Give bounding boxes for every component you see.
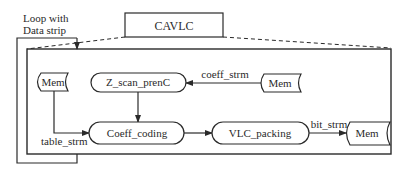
z-scan-prenc-label: Z_scan_prenC	[106, 76, 170, 88]
mem-left-node: Mem	[38, 73, 69, 91]
vlc-packing-node: VLC_packing	[212, 122, 309, 144]
expansion-line-left	[27, 37, 125, 49]
vlc-packing-label: VLC_packing	[229, 127, 292, 139]
mem-right-bottom-node: Mem	[347, 122, 391, 145]
coeff-coding-node: Coeff_coding	[89, 122, 184, 144]
cavlc-title: CAVLC	[154, 19, 193, 33]
mem-right-top-label: Mem	[268, 77, 292, 89]
bit-strm-label: bit_strm	[311, 118, 348, 130]
cavlc-title-box: CAVLC	[125, 13, 223, 37]
cavlc-diagram: Loop with Data strip CAVLC Mem Z_scan_pr…	[0, 0, 409, 181]
mem-right-top-node: Mem	[261, 74, 301, 92]
table-strm-label: table_strm	[41, 135, 88, 147]
expansion-line-right	[223, 37, 391, 48]
z-scan-prenc-node: Z_scan_prenC	[91, 73, 186, 92]
coeff-coding-label: Coeff_coding	[107, 127, 168, 139]
coeff-strm-label: coeff_strm	[201, 68, 249, 80]
mem-right-bottom-label: Mem	[355, 127, 379, 139]
table-strm-edge	[54, 91, 89, 133]
loop-label: Loop with Data strip	[23, 12, 71, 36]
mem-left-label: Mem	[41, 76, 65, 88]
